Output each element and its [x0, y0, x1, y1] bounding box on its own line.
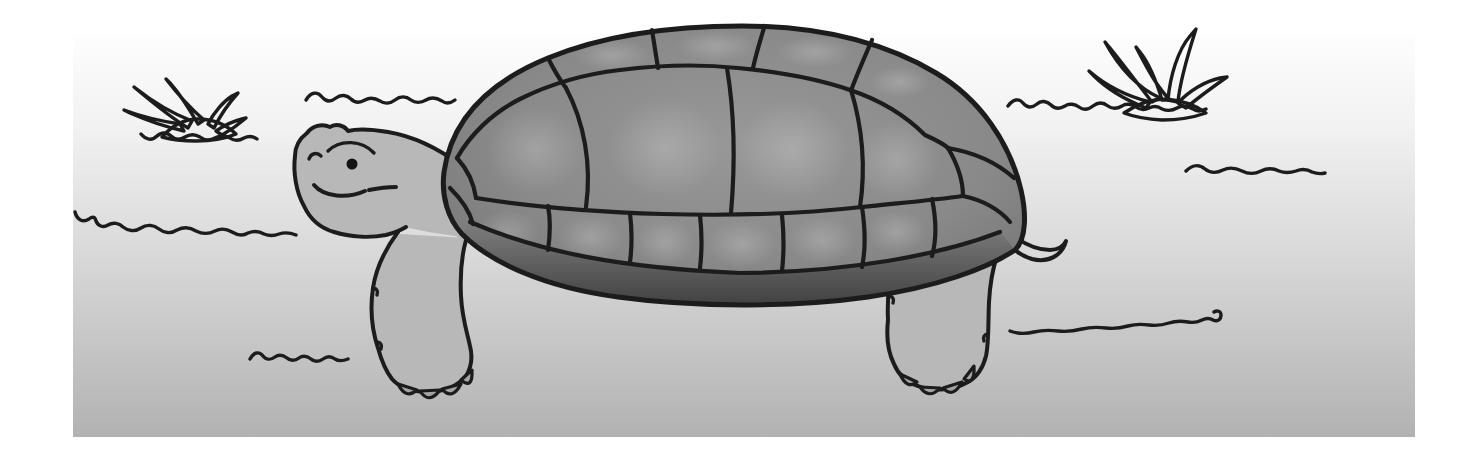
shell-highlight [706, 220, 778, 268]
scute-divider [700, 215, 702, 268]
shell-highlight [609, 98, 721, 198]
tortoise-front-leg [371, 232, 472, 398]
shell-highlight [867, 210, 927, 254]
shell-highlight [676, 30, 756, 62]
shell-highlight [777, 36, 853, 68]
shell-highlight [855, 120, 939, 200]
tortoise-illustration [0, 0, 1477, 458]
shell-highlight [870, 66, 930, 98]
scute-divider [782, 215, 784, 271]
scute-divider [630, 213, 632, 262]
shell-highlight [737, 100, 849, 200]
scute-divider [548, 206, 550, 250]
shell-highlight [487, 106, 583, 194]
tortoise-eye [347, 159, 358, 170]
shell-highlight [635, 218, 695, 266]
shell-highlight [788, 216, 856, 264]
illustration-page [0, 0, 1477, 458]
